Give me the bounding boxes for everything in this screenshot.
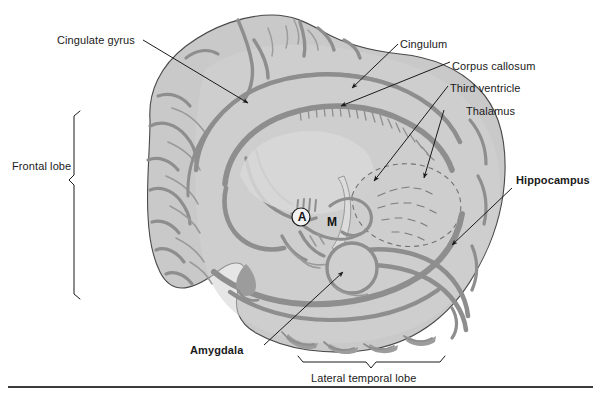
label-frontal-lobe: Frontal lobe xyxy=(12,160,71,172)
label-amygdala: Amygdala xyxy=(190,344,243,356)
amygdala-structure xyxy=(327,243,377,296)
marker-mammillary-body: M xyxy=(326,216,338,228)
label-cingulate-gyrus: Cingulate gyrus xyxy=(57,34,135,46)
label-cingulum: Cingulum xyxy=(400,38,447,50)
lateral-temporal-lobe-bracket xyxy=(298,356,445,368)
marker-anterior-commissure: A xyxy=(296,211,308,223)
label-third-ventricle: Third ventricle xyxy=(450,82,521,94)
label-hippocampus: Hippocampus xyxy=(516,174,590,186)
label-thalamus: Thalamus xyxy=(466,105,515,117)
frontal-lobe-bracket xyxy=(69,111,80,299)
label-corpus-callosum: Corpus callosum xyxy=(452,60,535,72)
label-lateral-temporal-lobe: Lateral temporal lobe xyxy=(311,372,416,384)
